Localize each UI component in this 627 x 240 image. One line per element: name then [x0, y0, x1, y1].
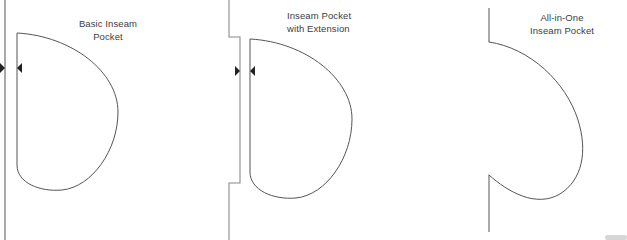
- extension-pocket-drawing: [209, 0, 418, 240]
- allinone-pocket-drawing: [418, 0, 627, 240]
- seam-line-with-extension: [229, 0, 240, 240]
- panel-inseam-pocket-with-extension: Inseam Pocket with Extension: [209, 0, 418, 240]
- notch-arrow-left-icon: [0, 63, 5, 73]
- panel-basic-inseam-pocket: Basic Inseam Pocket: [0, 0, 209, 240]
- notch-arrow-right-icon: [250, 66, 255, 76]
- pocket-bag-outline: [489, 42, 583, 199]
- pocket-bag-outline: [250, 39, 352, 198]
- panel-all-in-one-inseam-pocket: All-in-One Inseam Pocket: [418, 0, 627, 240]
- pocket-bag-outline: [17, 33, 118, 190]
- basic-pocket-drawing: [0, 0, 209, 240]
- notch-arrow-right-icon: [17, 63, 22, 73]
- notch-arrow-left-icon: [235, 66, 240, 76]
- corner-edge-mark: [605, 235, 627, 240]
- pocket-variations-diagram: Basic Inseam Pocket Inseam Pocket with E…: [0, 0, 627, 240]
